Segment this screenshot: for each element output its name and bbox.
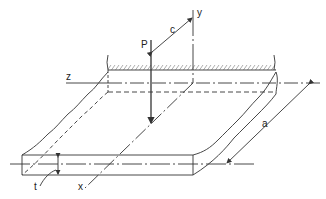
- left-hidden-edge: [22, 92, 108, 175]
- label-z: z: [66, 71, 71, 82]
- x-axis-line: [85, 83, 193, 188]
- a-dimension: [227, 84, 309, 163]
- label-x: x: [78, 181, 83, 192]
- clamped-edge-hatching: [108, 65, 276, 70]
- label-y: y: [197, 7, 202, 18]
- left-wavy-edge: [22, 72, 108, 155]
- label-t: t: [34, 181, 37, 192]
- left-support-line: [107, 55, 108, 70]
- label-a: a: [262, 118, 268, 129]
- t-leader: [40, 170, 56, 186]
- label-c: c: [170, 24, 175, 35]
- right-wavy-edge-top: [193, 72, 276, 155]
- plate-diagram: P c y z x a t: [0, 0, 326, 199]
- label-P: P: [141, 39, 148, 50]
